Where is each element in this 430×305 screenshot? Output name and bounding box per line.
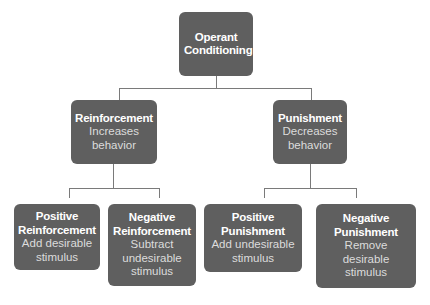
node-description: Increases behavior bbox=[84, 125, 144, 152]
node-negative-punishment: Negative Punishment Remove desirable sti… bbox=[316, 204, 416, 288]
connector-reinforcement-bar bbox=[69, 188, 160, 189]
connector-punishment-drop bbox=[311, 88, 312, 100]
node-positive-punishment: Positive Punishment Add undesirable stim… bbox=[204, 204, 302, 272]
node-description: Subtract undesirable stimulus bbox=[119, 238, 185, 279]
node-title: Reinforcement bbox=[75, 112, 153, 126]
node-title: Negative Reinforcement bbox=[112, 211, 192, 238]
node-punishment: Punishment Decreases behavior bbox=[273, 100, 347, 164]
node-title: Positive Punishment bbox=[218, 211, 288, 238]
node-description: Decreases behavior bbox=[280, 125, 340, 152]
connector-positive-punishment-drop bbox=[264, 188, 265, 198]
connector-reinforcement-drop bbox=[119, 88, 120, 100]
node-negative-reinforcement: Negative Reinforcement Subtract undesira… bbox=[108, 204, 196, 286]
connector-root-stem bbox=[216, 76, 217, 88]
node-description: Add undesirable stimulus bbox=[207, 238, 299, 265]
node-title: Negative Punishment bbox=[331, 212, 401, 239]
node-title: Operant Conditioning bbox=[184, 31, 248, 58]
node-description: Add desirable stimulus bbox=[17, 237, 97, 264]
connector-negative-punishment-drop bbox=[356, 188, 357, 198]
node-title: Punishment bbox=[278, 112, 342, 126]
node-title: Positive Reinforcement bbox=[17, 210, 97, 237]
connector-negative-reinforcement-drop bbox=[159, 188, 160, 198]
node-reinforcement: Reinforcement Increases behavior bbox=[71, 100, 157, 164]
connector-punishment-bar bbox=[264, 188, 357, 189]
node-positive-reinforcement: Positive Reinforcement Add desirable sti… bbox=[14, 204, 100, 270]
node-operant-conditioning: Operant Conditioning bbox=[179, 12, 253, 76]
connector-positive-reinforcement-drop bbox=[69, 188, 70, 198]
connector-punishment-stem bbox=[310, 164, 311, 188]
connector-reinforcement-stem bbox=[113, 164, 114, 188]
node-description: Remove desirable stimulus bbox=[336, 239, 396, 280]
connector-level2-bar bbox=[119, 88, 312, 89]
